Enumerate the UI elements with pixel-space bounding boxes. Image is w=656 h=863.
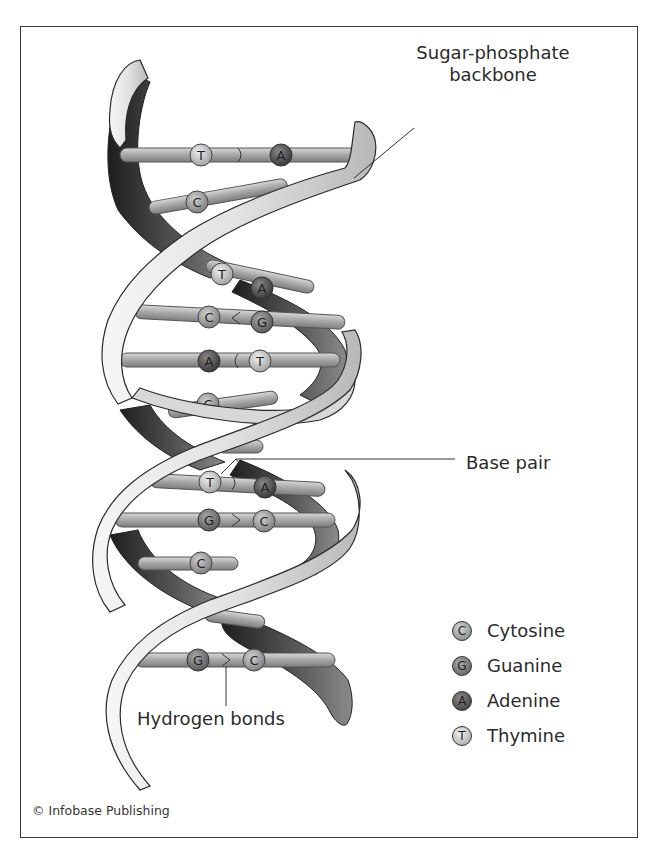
svg-text:C: C: [249, 653, 258, 668]
legend-item-guanine: G Guanine: [452, 648, 565, 683]
base-C-2: C: [198, 306, 220, 328]
svg-text:T: T: [217, 267, 226, 282]
base-C-1: C: [186, 191, 208, 213]
svg-text:T: T: [255, 354, 264, 369]
base-A-3: A: [198, 350, 220, 372]
copyright-credit: © Infobase Publishing: [32, 803, 170, 818]
adenine-icon: A: [452, 691, 472, 711]
svg-text:T: T: [205, 475, 214, 490]
svg-text:G: G: [257, 315, 267, 330]
legend: C Cytosine G Guanine A Adenine T Thymine: [452, 613, 565, 753]
base-T-1: T: [190, 144, 212, 166]
base-C-6: C: [243, 649, 265, 671]
base-C-4: C: [253, 510, 275, 532]
label-sugar-phosphate-backbone: Sugar-phosphate backbone: [408, 42, 578, 86]
base-T-4: T: [199, 471, 221, 493]
base-A-2: A: [251, 277, 273, 299]
guanine-icon: G: [452, 656, 472, 676]
svg-text:A: A: [261, 480, 270, 495]
svg-text:C: C: [204, 310, 213, 325]
base-G-1: G: [251, 311, 273, 333]
base-T-2: T: [211, 263, 233, 285]
label-base-pair: Base pair: [466, 452, 550, 474]
base-T-3: T: [249, 350, 271, 372]
base-A-4: A: [254, 476, 276, 498]
base-A-1: A: [270, 144, 292, 166]
svg-text:A: A: [277, 148, 286, 163]
label-backbone-line1: Sugar-phosphate: [408, 42, 578, 64]
legend-item-thymine: T Thymine: [452, 718, 565, 753]
svg-text:G: G: [193, 653, 203, 668]
legend-label: Cytosine: [487, 620, 565, 641]
svg-text:C: C: [192, 195, 201, 210]
legend-label: Adenine: [487, 690, 560, 711]
base-G-2: G: [198, 509, 220, 531]
legend-label: Thymine: [487, 725, 565, 746]
cytosine-icon: C: [452, 621, 472, 641]
svg-text:G: G: [204, 513, 214, 528]
svg-text:A: A: [205, 354, 214, 369]
base-G-3: G: [187, 649, 209, 671]
legend-item-cytosine: C Cytosine: [452, 613, 565, 648]
base-C-5: C: [190, 552, 212, 574]
legend-item-adenine: A Adenine: [452, 683, 565, 718]
svg-text:A: A: [258, 281, 267, 296]
legend-label: Guanine: [487, 655, 562, 676]
thymine-icon: T: [452, 726, 472, 746]
label-hydrogen-bonds: Hydrogen bonds: [137, 708, 285, 730]
svg-text:T: T: [196, 148, 205, 163]
label-backbone-line2: backbone: [408, 64, 578, 86]
svg-text:C: C: [196, 556, 205, 571]
svg-text:C: C: [259, 514, 268, 529]
